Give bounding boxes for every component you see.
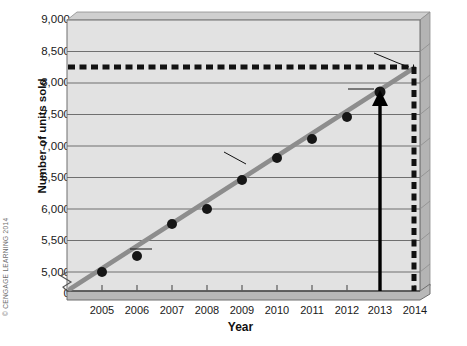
data-point-2011 [307,134,317,144]
data-point-2005 [97,267,107,277]
panel-right-bevel [420,12,430,294]
data-point-2006 [132,251,142,261]
plot-background [67,20,420,294]
plot-area [0,0,467,346]
data-point-2009 [237,175,247,185]
data-point-2012 [342,112,352,122]
data-point-2007 [167,219,177,229]
data-point-2010 [272,153,282,163]
data-point-2008 [202,204,212,214]
panel-top-bevel [67,12,430,20]
chart-figure: © CENGAGE LEARNING 2014 Number of units … [0,0,467,346]
